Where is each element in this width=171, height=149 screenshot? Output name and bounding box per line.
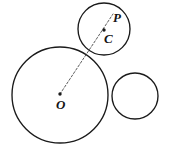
ray-o-to-p xyxy=(60,14,113,94)
point-label-p: P xyxy=(113,11,121,24)
point-dot-o xyxy=(58,92,61,95)
right-circle xyxy=(112,73,158,119)
point-label-o: O xyxy=(56,98,65,111)
geometry-figure: P C O xyxy=(0,0,171,149)
point-label-c: C xyxy=(104,32,113,45)
figure-canvas xyxy=(0,0,171,149)
